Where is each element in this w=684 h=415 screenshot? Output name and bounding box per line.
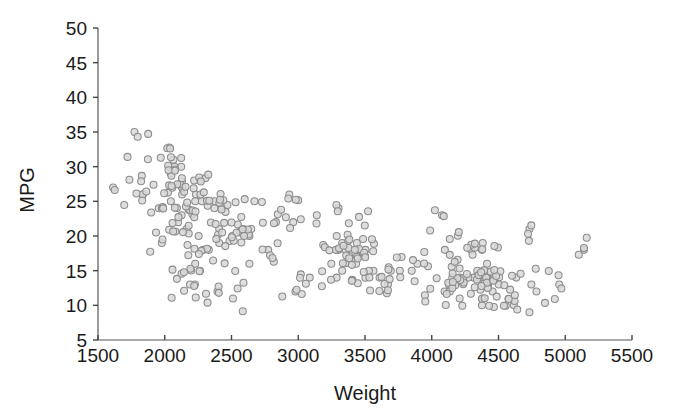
- x-tick-label: 3500: [344, 345, 386, 366]
- data-point: [212, 221, 219, 228]
- data-point: [121, 201, 128, 208]
- data-point: [333, 201, 340, 208]
- data-point: [478, 302, 485, 309]
- data-point: [190, 185, 197, 192]
- data-point: [178, 154, 185, 161]
- data-point: [238, 213, 245, 220]
- data-point: [180, 269, 187, 276]
- data-point: [328, 260, 335, 267]
- data-point: [259, 219, 266, 226]
- data-point: [134, 133, 141, 140]
- data-point: [528, 222, 535, 229]
- data-point: [464, 244, 471, 251]
- data-point: [173, 275, 180, 282]
- data-point: [192, 208, 199, 215]
- data-point: [345, 220, 352, 227]
- data-point: [493, 293, 500, 300]
- data-point: [443, 290, 450, 297]
- data-point: [269, 255, 276, 262]
- data-point: [195, 233, 202, 240]
- data-point: [215, 289, 222, 296]
- data-point: [378, 273, 385, 280]
- data-point: [491, 242, 498, 249]
- data-point: [292, 196, 299, 203]
- data-point: [339, 260, 346, 267]
- data-point: [366, 274, 373, 281]
- data-point: [478, 283, 485, 290]
- data-point: [218, 206, 225, 213]
- data-point: [368, 236, 375, 243]
- data-point: [234, 285, 241, 292]
- data-point: [232, 268, 239, 275]
- data-point: [293, 286, 300, 293]
- data-point: [334, 208, 341, 215]
- data-point: [196, 268, 203, 275]
- data-point: [159, 236, 166, 243]
- y-tick-label: 25: [66, 191, 87, 212]
- data-point: [555, 272, 562, 279]
- data-point: [500, 302, 507, 309]
- data-point: [145, 130, 152, 137]
- data-point: [168, 294, 175, 301]
- data-point: [192, 294, 199, 301]
- data-point: [205, 171, 212, 178]
- data-point: [169, 266, 176, 273]
- data-point: [422, 298, 429, 305]
- data-point: [551, 296, 558, 303]
- data-point: [326, 247, 333, 254]
- data-point: [433, 275, 440, 282]
- data-point: [133, 190, 140, 197]
- data-point: [442, 302, 449, 309]
- data-point: [484, 260, 491, 267]
- data-point: [440, 213, 447, 220]
- y-tick-label: 20: [66, 226, 87, 247]
- x-axis-title: Weight: [334, 382, 396, 404]
- data-point: [167, 154, 174, 161]
- data-point: [361, 222, 368, 229]
- x-tick-label: 4500: [477, 345, 519, 366]
- data-point: [365, 208, 372, 215]
- data-point: [274, 240, 281, 247]
- data-point: [397, 274, 404, 281]
- data-point: [217, 196, 224, 203]
- data-point: [479, 246, 486, 253]
- data-point: [111, 187, 118, 194]
- data-point: [144, 156, 151, 163]
- data-point: [525, 237, 532, 244]
- data-point: [328, 276, 335, 283]
- data-point: [313, 220, 320, 227]
- data-point: [171, 204, 178, 211]
- data-point: [580, 244, 587, 251]
- data-point: [238, 239, 245, 246]
- data-point: [408, 267, 415, 274]
- y-tick-label: 45: [66, 53, 87, 74]
- data-point: [161, 190, 168, 197]
- data-point: [533, 288, 540, 295]
- data-point: [509, 272, 516, 279]
- y-axis-ticks: 5101520253035404550: [66, 18, 98, 351]
- x-tick-label: 2500: [210, 345, 252, 366]
- data-point: [427, 227, 434, 234]
- data-point: [471, 284, 478, 291]
- data-point: [197, 178, 204, 185]
- data-point: [167, 145, 174, 152]
- data-point: [446, 236, 453, 243]
- data-point: [370, 248, 377, 255]
- data-point: [431, 207, 438, 214]
- data-point: [203, 290, 210, 297]
- data-point: [191, 283, 198, 290]
- data-point: [239, 308, 246, 315]
- data-point: [507, 286, 514, 293]
- data-point: [219, 229, 226, 236]
- data-point: [526, 309, 533, 316]
- data-point: [517, 270, 524, 277]
- data-point: [139, 197, 146, 204]
- data-point: [185, 252, 192, 259]
- data-point: [427, 285, 434, 292]
- data-point: [354, 255, 361, 262]
- data-point: [160, 205, 167, 212]
- data-point: [251, 198, 258, 205]
- chart-canvas: 5101520253035404550 15002000250030003500…: [0, 0, 684, 415]
- data-point: [180, 229, 187, 236]
- data-point: [360, 269, 367, 276]
